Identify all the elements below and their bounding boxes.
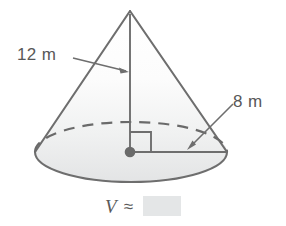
radius-dimension-label: 8 m [233, 93, 263, 110]
volume-equation-row: V ≈ [0, 196, 286, 216]
volume-symbol: V [105, 197, 117, 216]
volume-answer-input[interactable] [143, 196, 181, 216]
cone-volume-figure: 12 m 8 m V ≈ [0, 0, 286, 226]
base-center-point [125, 147, 136, 158]
cone-diagram [0, 0, 286, 226]
height-dimension-label: 12 m [17, 46, 56, 63]
approximately-equal-sign: ≈ [124, 198, 133, 215]
